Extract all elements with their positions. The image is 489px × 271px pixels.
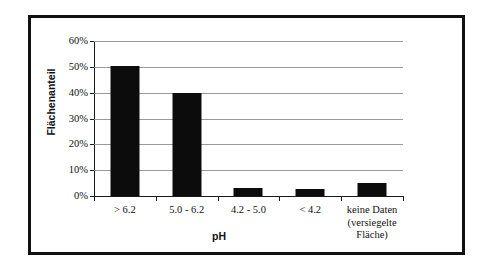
x-axis-tick-mark — [341, 196, 342, 201]
y-axis-tick-labels: 0%10%20%30%40%50%60% — [31, 18, 88, 252]
x-axis-tick-mark — [403, 196, 404, 201]
x-axis-tick-mark — [156, 196, 157, 201]
y-axis-tick-label: 50% — [36, 62, 88, 72]
y-axis-tick-label: 20% — [36, 139, 88, 149]
bar-slot — [94, 41, 156, 196]
y-axis-tick-label: 0% — [36, 191, 88, 201]
y-axis-tick-label: 30% — [36, 114, 88, 124]
x-axis-title: pH — [94, 230, 344, 242]
x-axis-category-label-line: Fläche) — [335, 229, 409, 242]
bar-series — [94, 41, 403, 196]
bar[interactable] — [172, 93, 201, 196]
x-axis-tick-mark — [218, 196, 219, 201]
x-axis-tick-mark — [94, 196, 95, 201]
x-axis-category-label: keine Daten(versiegelteFläche) — [335, 204, 409, 242]
bar[interactable] — [110, 66, 139, 196]
y-axis-tick-label: 10% — [36, 165, 88, 175]
bar-slot — [341, 41, 403, 196]
screenshot-page: Flächenanteil 0%10%20%30%40%50%60% > 6.2… — [0, 0, 489, 271]
x-axis-category-labels: > 6.25.0 - 6.24.2 - 5.0< 4.2keine Daten(… — [94, 204, 403, 250]
x-axis-category-label-line: (versiegelte — [335, 217, 409, 230]
bar-slot — [218, 41, 280, 196]
bar-chart: Flächenanteil 0%10%20%30%40%50%60% > 6.2… — [31, 18, 462, 252]
x-axis-tick-marks — [94, 196, 403, 202]
x-axis-tick-mark — [279, 196, 280, 201]
y-axis-tick-label: 40% — [36, 88, 88, 98]
bar[interactable] — [358, 183, 387, 196]
bar-slot — [279, 41, 341, 196]
bar-slot — [156, 41, 218, 196]
bar[interactable] — [234, 188, 263, 196]
y-axis-tick-label: 60% — [36, 36, 88, 46]
bar[interactable] — [296, 189, 325, 196]
x-axis-category-label-line: keine Daten — [335, 204, 409, 217]
chart-frame: Flächenanteil 0%10%20%30%40%50%60% > 6.2… — [28, 15, 465, 255]
